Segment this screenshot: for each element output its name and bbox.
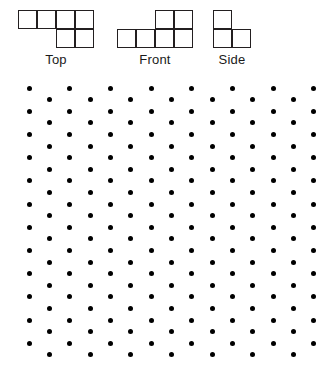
grid-dot bbox=[27, 225, 32, 230]
grid-dot bbox=[250, 190, 255, 195]
grid-dot bbox=[210, 190, 215, 195]
top-view-cell bbox=[56, 10, 75, 29]
grid-dot bbox=[27, 155, 32, 160]
grid-dot bbox=[67, 202, 72, 207]
side-view: Side bbox=[213, 0, 251, 48]
grid-dot bbox=[271, 86, 276, 91]
grid-dot bbox=[47, 306, 52, 311]
grid-dot bbox=[230, 225, 235, 230]
grid-dot bbox=[271, 318, 276, 323]
grid-dot bbox=[230, 202, 235, 207]
worksheet-page: TopFrontSide bbox=[0, 0, 328, 369]
grid-dot bbox=[67, 271, 72, 276]
grid-dot bbox=[108, 341, 113, 346]
grid-dot bbox=[189, 132, 194, 137]
grid-dot bbox=[271, 271, 276, 276]
grid-dot bbox=[250, 260, 255, 265]
grid-dot bbox=[128, 190, 133, 195]
grid-dot bbox=[27, 294, 32, 299]
grid-dot bbox=[169, 120, 174, 125]
grid-dot bbox=[149, 86, 154, 91]
grid-dot bbox=[47, 167, 52, 172]
grid-dot bbox=[169, 306, 174, 311]
grid-dot bbox=[149, 225, 154, 230]
grid-dot bbox=[291, 97, 296, 102]
grid-dot bbox=[271, 178, 276, 183]
grid-dot bbox=[210, 167, 215, 172]
grid-dot bbox=[88, 260, 93, 265]
grid-dot bbox=[311, 155, 316, 160]
grid-dot bbox=[47, 283, 52, 288]
grid-dot bbox=[291, 283, 296, 288]
grid-dot bbox=[271, 109, 276, 114]
grid-dot bbox=[291, 236, 296, 241]
grid-dot bbox=[67, 155, 72, 160]
front-view-label: Front bbox=[117, 52, 193, 67]
isometric-dot-grid bbox=[0, 72, 328, 369]
grid-dot bbox=[210, 97, 215, 102]
grid-dot bbox=[47, 260, 52, 265]
grid-dot bbox=[311, 248, 316, 253]
grid-dot bbox=[271, 341, 276, 346]
front-view-cell bbox=[136, 29, 155, 48]
grid-dot bbox=[291, 213, 296, 218]
grid-dot bbox=[230, 318, 235, 323]
grid-dot bbox=[149, 271, 154, 276]
grid-dot bbox=[149, 318, 154, 323]
grid-dot bbox=[149, 294, 154, 299]
grid-dot bbox=[189, 271, 194, 276]
grid-dot bbox=[189, 86, 194, 91]
grid-dot bbox=[210, 236, 215, 241]
grid-dot bbox=[27, 248, 32, 253]
grid-dot bbox=[311, 178, 316, 183]
grid-dot bbox=[250, 120, 255, 125]
grid-dot bbox=[189, 202, 194, 207]
grid-dot bbox=[27, 132, 32, 137]
front-view-shape bbox=[117, 10, 193, 48]
grid-dot bbox=[88, 283, 93, 288]
front-view-cell bbox=[117, 29, 136, 48]
grid-dot bbox=[88, 352, 93, 357]
grid-dot bbox=[230, 86, 235, 91]
grid-dot bbox=[47, 213, 52, 218]
grid-dot bbox=[311, 294, 316, 299]
grid-dot bbox=[88, 167, 93, 172]
grid-dot bbox=[108, 155, 113, 160]
grid-dot bbox=[210, 260, 215, 265]
grid-dot bbox=[67, 294, 72, 299]
grid-dot bbox=[27, 109, 32, 114]
grid-dot bbox=[67, 109, 72, 114]
grid-dot bbox=[67, 86, 72, 91]
grid-dot bbox=[128, 144, 133, 149]
grid-dot bbox=[230, 109, 235, 114]
grid-dot bbox=[149, 109, 154, 114]
grid-dot bbox=[271, 294, 276, 299]
grid-dot bbox=[291, 352, 296, 357]
grid-dot bbox=[88, 120, 93, 125]
grid-dot bbox=[210, 144, 215, 149]
grid-dot bbox=[67, 178, 72, 183]
grid-dot bbox=[250, 144, 255, 149]
grid-dot bbox=[47, 236, 52, 241]
grid-dot bbox=[271, 225, 276, 230]
top-view-cell bbox=[18, 10, 37, 29]
grid-dot bbox=[149, 155, 154, 160]
grid-dot bbox=[108, 86, 113, 91]
grid-dot bbox=[291, 190, 296, 195]
grid-dot bbox=[210, 120, 215, 125]
grid-dot bbox=[250, 167, 255, 172]
grid-dot bbox=[27, 271, 32, 276]
grid-dot bbox=[311, 341, 316, 346]
grid-dot bbox=[128, 329, 133, 334]
grid-dot bbox=[108, 178, 113, 183]
front-view-cell bbox=[155, 29, 174, 48]
grid-dot bbox=[271, 202, 276, 207]
grid-dot bbox=[230, 271, 235, 276]
grid-dot bbox=[250, 236, 255, 241]
grid-dot bbox=[169, 190, 174, 195]
grid-dot bbox=[291, 306, 296, 311]
grid-dot bbox=[291, 260, 296, 265]
grid-dot bbox=[108, 248, 113, 253]
grid-dot bbox=[210, 329, 215, 334]
grid-dot bbox=[108, 318, 113, 323]
